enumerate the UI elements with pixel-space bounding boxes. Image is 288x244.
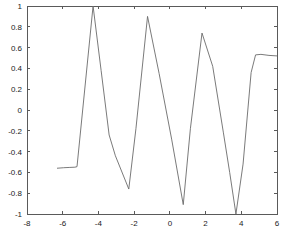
x-tick-label: -4 [95, 219, 103, 228]
figure-container: -8-6-4-20246 -1-0.8-0.6-0.4-0.200.20.40.… [0, 0, 288, 244]
y-tick-label: -1 [15, 210, 23, 219]
x-axis-tick-labels: -8-6-4-20246 [23, 219, 279, 228]
y-tick-label: 1 [18, 2, 23, 11]
x-tick-label: -8 [23, 219, 31, 228]
y-tick-label: 0.4 [11, 64, 23, 73]
y-tick-label: -0.4 [8, 148, 22, 157]
y-tick-label: 0 [18, 106, 23, 115]
y-axis-tick-labels: -1-0.8-0.6-0.4-0.200.20.40.60.81 [8, 2, 22, 219]
x-tick-label: 2 [203, 219, 208, 228]
y-tick-label: 0.8 [11, 23, 23, 32]
y-tick-label: -0.8 [8, 189, 22, 198]
x-tick-label: 4 [239, 219, 244, 228]
line-chart: -8-6-4-20246 -1-0.8-0.6-0.4-0.200.20.40.… [0, 0, 288, 244]
y-tick-label: 0.2 [11, 85, 23, 94]
y-tick-label: -0.6 [8, 168, 22, 177]
x-tick-label: 0 [168, 219, 173, 228]
x-tick-label: -2 [131, 219, 139, 228]
y-tick-label: 0.6 [11, 44, 23, 53]
y-tick-label: -0.2 [8, 127, 22, 136]
x-tick-label: -6 [59, 219, 67, 228]
x-tick-label: 6 [275, 219, 280, 228]
